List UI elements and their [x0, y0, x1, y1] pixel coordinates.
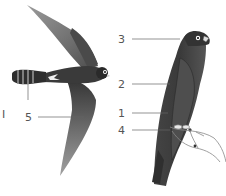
label-2: 2 [118, 79, 125, 90]
illustration-canvas: I 5 3 2 1 4 [0, 0, 226, 196]
leader-lines [28, 39, 180, 130]
label-4: 4 [118, 125, 125, 136]
lower-wing [60, 78, 96, 176]
flying-beak [107, 74, 110, 77]
flying-falcon [12, 5, 110, 176]
label-1: 1 [118, 108, 125, 119]
flying-pupil [104, 71, 106, 73]
label-5: 5 [25, 112, 32, 123]
label-3: 3 [118, 34, 125, 45]
tail [12, 70, 46, 85]
label-left-marker: I [2, 109, 5, 120]
perched-pupil [197, 37, 199, 39]
perched-falcon [152, 31, 210, 186]
